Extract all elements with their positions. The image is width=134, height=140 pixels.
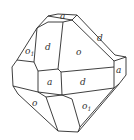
- label-center-d: d: [80, 77, 86, 87]
- label-lower-right-o1: o1: [82, 101, 91, 112]
- label-upper-left-o1: o1: [25, 46, 34, 57]
- label-lower-left-o: o: [32, 98, 38, 108]
- label-right-a: a: [116, 65, 121, 75]
- crystal-diagram: a o1 d o d a a d o o1: [0, 0, 134, 140]
- label-upper-d: d: [45, 42, 51, 52]
- label-upper-o: o: [76, 47, 82, 57]
- label-top-a: a: [60, 11, 65, 21]
- face-labels: a o1 d o d a a d o o1: [0, 0, 134, 140]
- label-center-a: a: [47, 77, 52, 87]
- label-upper-right-d: d: [97, 33, 103, 43]
